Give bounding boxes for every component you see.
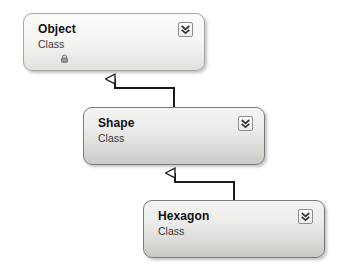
- class-node-object-title: Object: [38, 22, 76, 36]
- collapse-toggle-shape[interactable]: [238, 116, 253, 131]
- double-chevron-down-icon: [180, 24, 191, 35]
- connector-hexagon-to-shape[interactable]: [175, 173, 234, 200]
- class-node-hexagon-stereotype: Class: [158, 225, 184, 237]
- class-node-object[interactable]: Object Class: [23, 13, 205, 71]
- class-node-shape-title: Shape: [98, 116, 135, 130]
- class-node-hexagon-title: Hexagon: [158, 209, 209, 223]
- connector-shape-to-object[interactable]: [115, 79, 174, 107]
- class-node-hexagon[interactable]: Hexagon Class: [143, 200, 325, 258]
- double-chevron-down-icon: [300, 211, 311, 222]
- uml-diagram-canvas: Object --> Shape --> Object Class Shape: [0, 0, 346, 268]
- class-node-object-stereotype: Class: [38, 38, 64, 50]
- lock-icon: [60, 54, 69, 63]
- collapse-toggle-hexagon[interactable]: [298, 209, 313, 224]
- double-chevron-down-icon: [240, 118, 251, 129]
- collapse-toggle-object[interactable]: [178, 22, 193, 37]
- class-node-shape[interactable]: Shape Class: [83, 107, 265, 165]
- class-node-shape-stereotype: Class: [98, 132, 124, 144]
